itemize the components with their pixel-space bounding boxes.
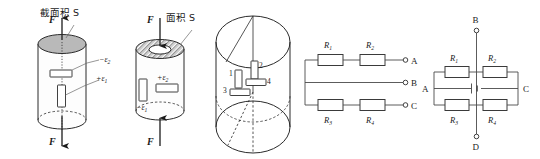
svg-text:+ε1: +ε1 [96,74,108,84]
resistor-R2-label: R2 [365,40,374,51]
gauge-transverse [156,84,178,92]
panel-wheatstone-bridge: B D A C R1 R2 R3 R4 [422,15,529,152]
terminal-D-node[interactable] [474,134,479,139]
resistor-R2 [360,55,385,66]
terminal-A-label: A [422,84,429,94]
resistor-R2 [483,67,507,78]
panel-hollow-tube-compression: F F 面积 S +ε2 −ε1 [136,12,195,147]
resistor-R4 [360,100,385,111]
eps1-subscript: 1 [145,107,148,113]
svg-text:R2: R2 [487,53,496,64]
tube-bore-hole [149,45,171,54]
gauge-axial-label: +ε1 [96,74,108,84]
eps1-subscript: 1 [105,78,108,84]
terminal-B-node[interactable] [403,80,408,85]
gauge-4 [246,79,266,86]
eps2-subscript: 2 [108,59,111,65]
gauge-2-label: 2 [259,61,263,70]
force-label-bottom: F [48,136,56,147]
gauge-2 [251,61,258,79]
area-leader-line [180,30,192,45]
figure-root: F F 截面积 S −ε2 +ε1 [0,0,540,159]
terminal-B-node[interactable] [474,28,479,33]
resistor-R2-label: R2 [487,53,496,64]
force-label-top: F [146,14,154,25]
gauge-1 [235,70,242,88]
resistor-R3 [318,100,343,111]
terminal-B-label: B [411,78,417,88]
gauge-1-label: 1 [229,69,233,78]
resistor-R1-label: R1 [449,53,458,64]
svg-text:−ε2: −ε2 [99,55,111,65]
terminal-B-label: B [473,15,479,25]
resistor-R3 [445,100,469,111]
gauge-transverse-label: −ε2 [99,55,111,65]
resistor-R1 [445,67,469,78]
R2-subscript: 2 [493,58,496,64]
svg-text:R4: R4 [365,115,374,126]
force-label-bottom: F [146,136,154,147]
resistor-R1 [318,55,343,66]
technical-figure: F F 截面积 S −ε2 +ε1 [0,0,540,159]
svg-text:R3: R3 [449,115,458,126]
terminal-C-label: C [523,84,529,94]
gauge-axial [58,85,66,107]
terminal-A-label: A [411,56,418,66]
eps2-subscript: 2 [166,77,169,83]
panel-solid-cylinder-tension: F F 截面积 S −ε2 +ε1 [38,7,111,147]
svg-text:R2: R2 [365,40,374,51]
gauge-transverse [50,70,72,77]
svg-text:R4: R4 [487,115,496,126]
cyl3-chord-top [226,16,253,62]
area-label: 截面积 S [40,7,79,18]
gauge-4-label: 4 [267,77,271,86]
panel-cylinder-four-gauges: 1 2 3 4 [216,16,290,153]
R2-subscript: 2 [371,45,374,51]
resistor-R4 [483,100,507,111]
resistor-R1-label: R1 [323,40,332,51]
gauge-3 [230,89,250,96]
resistor-R4-label: R4 [365,115,374,126]
terminal-C-node[interactable] [403,103,408,108]
cyl3-chord-bottom [228,92,253,145]
R1-subscript: 1 [455,58,458,64]
R3-subscript: 3 [454,120,458,126]
svg-text:R3: R3 [323,115,332,126]
terminal-A-node[interactable] [403,58,408,63]
resistor-R3-label: R3 [323,115,332,126]
svg-text:R1: R1 [449,53,458,64]
gauge-axial [139,79,147,101]
resistor-R3-label: R3 [449,115,458,126]
R4-subscript: 4 [371,120,374,126]
svg-text:R1: R1 [323,40,332,51]
terminal-C-label: C [411,101,417,111]
R3-subscript: 3 [328,120,332,126]
gauge-3-label: 3 [223,86,227,95]
R4-subscript: 4 [493,120,496,126]
terminal-D-label: D [473,142,480,152]
panel-three-terminal-network: A R1 R2 B C R3 R4 [305,40,418,126]
area-label: 面积 S [166,12,195,23]
resistor-R4-label: R4 [487,115,496,126]
R1-subscript: 1 [329,45,332,51]
